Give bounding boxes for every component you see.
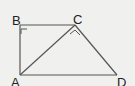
segment-cd: [75, 25, 117, 75]
segment-ac: [20, 25, 75, 75]
point-label-d: D: [117, 76, 126, 86]
right-angle-mark-c: [70, 30, 80, 35]
geometry-diagram: B C A D: [0, 0, 135, 86]
point-label-c: C: [73, 13, 82, 26]
point-label-b: B: [12, 14, 21, 27]
right-angle-mark-b: [21, 29, 27, 34]
point-label-a: A: [11, 76, 20, 86]
